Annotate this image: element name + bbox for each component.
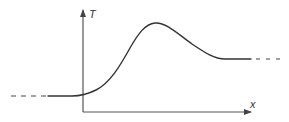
temperature-curve	[48, 23, 251, 96]
temperature-profile-diagram: T x	[0, 0, 289, 122]
x-axis-label: x	[250, 99, 256, 110]
diagram-canvas	[0, 0, 289, 122]
y-axis-label: T	[89, 9, 96, 20]
